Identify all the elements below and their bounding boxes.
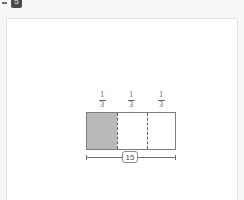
fraction-denominator-1: 3: [90, 101, 114, 109]
dimension-endpoint-left: [86, 155, 87, 160]
fraction-bar-rectangle: [86, 112, 176, 150]
dimension-line: [86, 157, 176, 158]
dimension-value-label: 15: [122, 151, 138, 163]
fraction-bar-line-3: [158, 100, 165, 101]
fraction-denominator-2: 3: [119, 101, 143, 109]
question-number-badge[interactable]: 5: [11, 0, 22, 8]
shaded-segment: [87, 113, 117, 149]
fraction-numerator-2: 1: [119, 91, 143, 99]
fraction-label-2: 1 3: [119, 91, 143, 109]
fraction-denominator-3: 3: [149, 101, 173, 109]
fraction-numerator-1: 1: [90, 91, 114, 99]
fraction-numerator-3: 1: [149, 91, 173, 99]
fraction-label-1: 1 3: [90, 91, 114, 109]
fraction-label-3: 1 3: [149, 91, 173, 109]
badge-leader-dash: [2, 2, 7, 4]
fraction-bar-line-2: [128, 100, 135, 101]
fraction-bar-diagram: 1 3 1 3 1 3 15: [7, 19, 244, 200]
dimension-endpoint-right: [175, 155, 176, 160]
fraction-bar-line-1: [99, 100, 106, 101]
content-card: 1 3 1 3 1 3 15: [6, 18, 238, 200]
segment-divider-1: [117, 113, 118, 149]
segment-divider-2: [147, 113, 148, 149]
